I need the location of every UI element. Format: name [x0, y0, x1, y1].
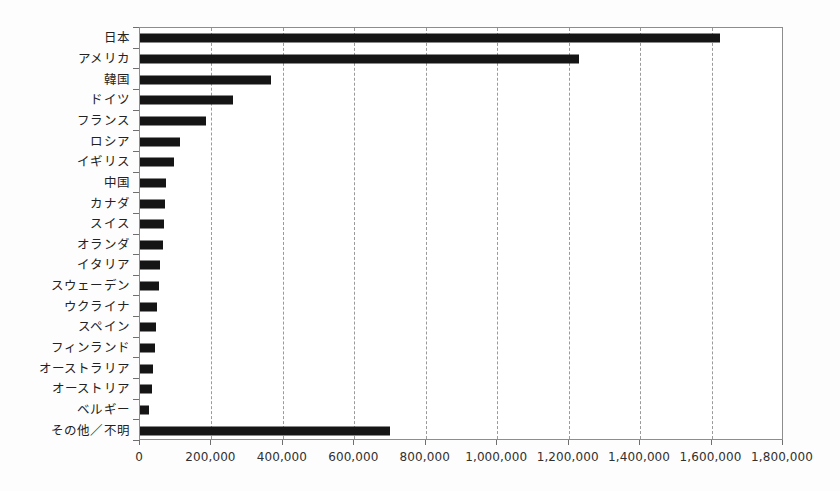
x-axis-tick — [568, 440, 569, 445]
x-axis-tick — [711, 440, 712, 445]
x-axis-tick-label: 1,000,000 — [465, 450, 527, 464]
x-axis-tick — [425, 440, 426, 445]
horizontal-bar-chart: 日本アメリカ韓国ドイツフランスロシアイギリス中国カナダスイスオランダイタリアスウ… — [0, 0, 840, 491]
category-label: スウェーデン — [0, 279, 130, 292]
category-label: オーストラリア — [0, 361, 130, 374]
bar — [140, 426, 390, 435]
bar — [140, 364, 153, 373]
bar — [140, 178, 166, 187]
x-axis-tick — [496, 440, 497, 445]
gridline — [354, 28, 355, 439]
category-label: 韓国 — [0, 72, 130, 85]
category-label: 日本 — [0, 31, 130, 44]
x-axis-tick — [210, 440, 211, 445]
bar — [140, 75, 271, 84]
bar — [140, 406, 149, 415]
category-label: その他／不明 — [0, 423, 130, 436]
plot-area — [139, 27, 783, 440]
x-axis-tick — [782, 440, 783, 445]
category-label: ベルギー — [0, 403, 130, 416]
bar — [140, 240, 163, 249]
category-label: 中国 — [0, 175, 130, 188]
x-axis-tick-label: 1,600,000 — [680, 450, 742, 464]
gridline — [712, 28, 713, 439]
bar — [140, 116, 206, 125]
x-axis-tick — [139, 440, 140, 445]
x-axis-tick-label: 200,000 — [185, 450, 235, 464]
x-axis-tick — [282, 440, 283, 445]
bar — [140, 199, 165, 208]
gridline — [283, 28, 284, 439]
category-label: スイス — [0, 217, 130, 230]
bar — [140, 34, 720, 43]
bar — [140, 385, 152, 394]
bar — [140, 344, 155, 353]
x-axis-tick-label: 800,000 — [400, 450, 450, 464]
x-axis-tick-label: 1,200,000 — [537, 450, 599, 464]
gridline — [640, 28, 641, 439]
x-axis-tick-label: 600,000 — [328, 450, 378, 464]
x-axis-tick-label: 400,000 — [257, 450, 307, 464]
x-axis-tick-label: 0 — [135, 450, 143, 464]
gridline — [426, 28, 427, 439]
x-axis-tick — [639, 440, 640, 445]
category-label: ドイツ — [0, 93, 130, 106]
gridline — [211, 28, 212, 439]
bar — [140, 323, 156, 332]
x-axis-tick — [353, 440, 354, 445]
category-label: オーストリア — [0, 382, 130, 395]
category-axis: 日本アメリカ韓国ドイツフランスロシアイギリス中国カナダスイスオランダイタリアスウ… — [0, 27, 134, 440]
category-label: フィンランド — [0, 341, 130, 354]
bar — [140, 261, 160, 270]
gridline — [497, 28, 498, 439]
category-label: スペイン — [0, 320, 130, 333]
bar — [140, 220, 164, 229]
category-label: イギリス — [0, 155, 130, 168]
category-label: アメリカ — [0, 51, 130, 64]
category-label: カナダ — [0, 196, 130, 209]
bar — [140, 282, 159, 291]
bar — [140, 137, 180, 146]
gridline — [569, 28, 570, 439]
bar — [140, 302, 157, 311]
x-axis-tick-label: 1,400,000 — [608, 450, 670, 464]
category-label: イタリア — [0, 258, 130, 271]
bar — [140, 96, 233, 105]
x-axis-tick-label: 1,800,000 — [751, 450, 813, 464]
x-axis-tick-marks — [139, 440, 783, 446]
bar — [140, 54, 579, 63]
x-axis-labels: 0200,000400,000600,000800,0001,000,0001,… — [0, 450, 840, 470]
category-label: ロシア — [0, 134, 130, 147]
bar — [140, 158, 174, 167]
category-label: ウクライナ — [0, 299, 130, 312]
category-label: フランス — [0, 113, 130, 126]
category-label: オランダ — [0, 237, 130, 250]
